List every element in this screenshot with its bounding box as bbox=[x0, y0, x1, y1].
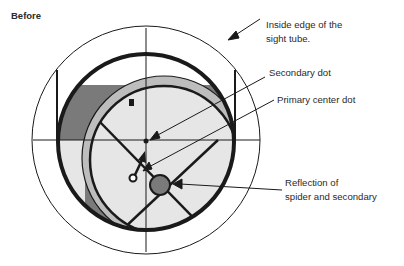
sight-tube-label-line1: Inside edge of the bbox=[266, 18, 342, 32]
secondary-dot bbox=[144, 139, 149, 144]
primary-center-dot-label: Primary center dot bbox=[277, 93, 355, 107]
sight-tube-label: Inside edge of the sight tube. bbox=[266, 18, 342, 46]
secondary-dot-label: Secondary dot bbox=[269, 66, 331, 80]
primary-center-dot bbox=[130, 175, 137, 182]
reflection-label-line1: Reflection of bbox=[285, 176, 377, 190]
reflection-label-line2: spider and secondary bbox=[285, 190, 377, 204]
sight-tube-label-line2: sight tube. bbox=[266, 32, 342, 46]
primary-mirror bbox=[90, 86, 238, 234]
arrowhead-icon bbox=[228, 31, 239, 40]
mirror-marker bbox=[129, 99, 134, 106]
secondary-reflection bbox=[150, 175, 170, 195]
reflection-label: Reflection of spider and secondary bbox=[285, 176, 377, 204]
collimation-diagram bbox=[0, 0, 404, 266]
